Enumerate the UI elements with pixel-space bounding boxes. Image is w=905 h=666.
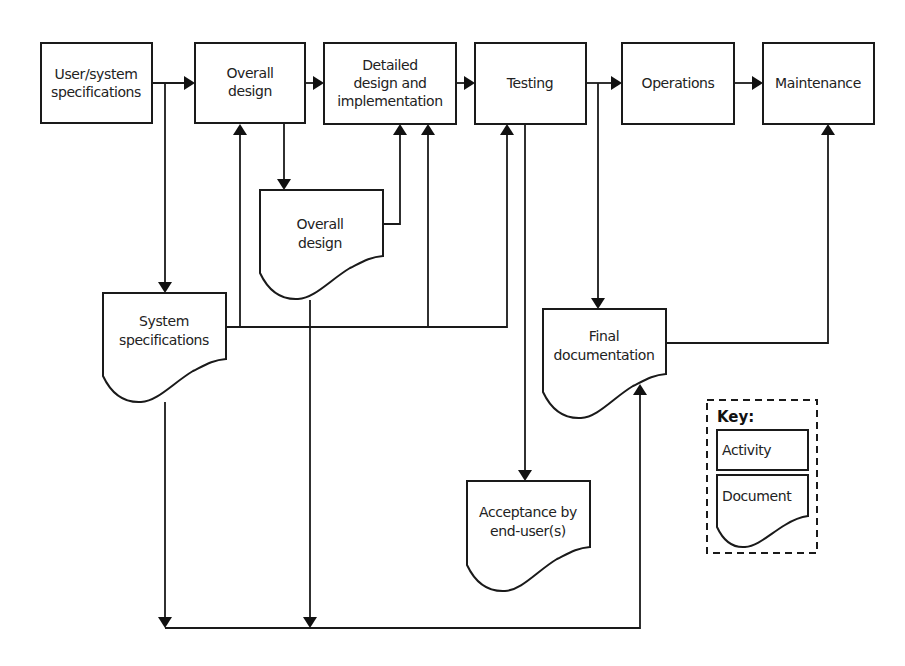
arrowhead-down bbox=[158, 282, 172, 293]
flowchart: User/system specifications Overall desig… bbox=[0, 0, 905, 666]
activity-operations[interactable]: Operations bbox=[622, 43, 734, 124]
activity-overall-design[interactable]: Overall design bbox=[195, 43, 305, 123]
legend-key: Key: Activity Document bbox=[707, 400, 817, 553]
document-overall-design[interactable]: Overall design bbox=[260, 190, 383, 299]
legend-activity-label: Activity bbox=[722, 442, 771, 458]
activity-label: Testing bbox=[506, 75, 553, 91]
arrowhead-up bbox=[393, 124, 407, 135]
document-label: documentation bbox=[554, 347, 655, 363]
arrowhead-down bbox=[303, 617, 317, 628]
document-system-specifications[interactable]: System specifications bbox=[103, 293, 226, 402]
arrowhead-up bbox=[421, 124, 435, 135]
activity-label: Operations bbox=[642, 75, 715, 91]
activity-label: specifications bbox=[51, 84, 141, 100]
arrowhead-down bbox=[158, 617, 172, 628]
activity-label: Overall bbox=[226, 65, 273, 81]
arrowhead-down bbox=[591, 298, 605, 309]
arrowhead-right bbox=[611, 76, 622, 90]
document-label: end-user(s) bbox=[490, 523, 566, 539]
document-label: design bbox=[298, 235, 342, 251]
document-label: Acceptance by bbox=[479, 504, 577, 520]
arrowhead-down bbox=[277, 179, 291, 190]
legend-document-label: Document bbox=[722, 488, 792, 504]
document-final-documentation[interactable]: Final documentation bbox=[543, 309, 666, 418]
document-label: Overall bbox=[296, 216, 343, 232]
edge-overall-doc-to-detailed bbox=[383, 133, 400, 224]
activity-detailed-design-and-implementation[interactable]: Detailed design and implementation bbox=[324, 43, 456, 124]
activity-label: Detailed bbox=[362, 57, 418, 73]
activity-label: design bbox=[228, 83, 272, 99]
arrowhead-down bbox=[518, 470, 532, 481]
arrowhead-right bbox=[313, 76, 324, 90]
legend-document-item: Document bbox=[717, 475, 808, 547]
legend-title: Key: bbox=[717, 408, 754, 426]
activity-testing[interactable]: Testing bbox=[475, 43, 586, 124]
legend-document-swatch bbox=[717, 475, 808, 547]
document-label: specifications bbox=[119, 332, 209, 348]
activity-label: User/system bbox=[55, 66, 138, 82]
activity-user-system-specifications[interactable]: User/system specifications bbox=[41, 43, 152, 123]
document-label: System bbox=[139, 313, 189, 329]
legend-activity-item: Activity bbox=[717, 430, 808, 470]
arrowhead-up bbox=[821, 124, 835, 135]
arrowhead-right bbox=[464, 76, 475, 90]
activity-label: Maintenance bbox=[775, 75, 861, 91]
document-label: Final bbox=[589, 328, 619, 344]
arrowhead-up bbox=[233, 124, 247, 135]
document-acceptance-by-end-users[interactable]: Acceptance by end-user(s) bbox=[467, 481, 590, 591]
activity-label: implementation bbox=[337, 93, 442, 109]
edge-final-doc-to-maintenance bbox=[666, 133, 828, 343]
arrowhead-right bbox=[184, 76, 195, 90]
arrowhead-up bbox=[500, 124, 514, 135]
activity-maintenance[interactable]: Maintenance bbox=[763, 43, 874, 124]
arrowhead-right bbox=[752, 76, 763, 90]
activity-label: design and bbox=[353, 75, 426, 91]
